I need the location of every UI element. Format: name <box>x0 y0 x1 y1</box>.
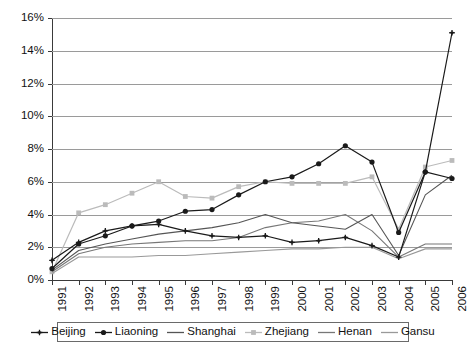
data-point-diamond <box>49 266 54 271</box>
data-point-square <box>450 158 455 163</box>
legend-item-henan[interactable]: Henan <box>318 326 372 338</box>
y-axis-tick-label: 2% <box>0 241 44 253</box>
legend-swatch-shanghai <box>167 327 184 338</box>
data-point-plus <box>316 238 322 244</box>
x-axis-tick-mark <box>132 280 133 285</box>
x-axis-tick-mark <box>79 280 80 285</box>
data-point-diamond <box>369 160 374 165</box>
y-axis-tick-label: 14% <box>0 45 44 57</box>
data-point-square <box>316 181 321 186</box>
data-point-square <box>370 174 375 179</box>
data-point-square <box>251 330 256 335</box>
chart-legend: BeijingLiaoningShanghaiZhejiangHenanGans… <box>57 322 409 342</box>
x-axis-tick-mark <box>159 280 160 285</box>
legend-swatch-gansu <box>381 327 398 338</box>
data-point-diamond <box>316 161 321 166</box>
y-axis-tick-label: 8% <box>0 143 44 155</box>
y-axis-labels: 0%2%4%6%8%10%12%14%16% <box>0 18 46 280</box>
x-axis-tick-mark <box>452 280 453 285</box>
y-axis-tick-label: 10% <box>0 110 44 122</box>
x-axis-tick-label: 1996 <box>190 286 202 312</box>
data-point-plus <box>129 223 135 229</box>
data-point-plus <box>37 329 43 335</box>
x-axis-tick-label: 2001 <box>324 286 336 312</box>
data-point-plus <box>289 240 295 246</box>
data-point-square <box>183 194 188 199</box>
legend-item-beijing[interactable]: Beijing <box>31 326 86 338</box>
data-point-square <box>236 184 241 189</box>
data-point-plus <box>103 228 109 234</box>
data-point-square <box>103 202 108 207</box>
data-point-diamond <box>396 230 401 235</box>
data-point-square <box>343 181 348 186</box>
legend-swatch-liaoning <box>95 327 112 338</box>
x-axis-tick-label: 1999 <box>270 286 282 312</box>
x-axis-tick-mark <box>105 280 106 285</box>
x-axis-tick-label: 2000 <box>297 286 309 312</box>
data-point-square <box>290 181 295 186</box>
legend-item-zhejiang[interactable]: Zhejiang <box>245 326 309 338</box>
x-axis-tick-label: 1994 <box>137 286 149 312</box>
data-point-plus <box>236 235 242 241</box>
x-axis-tick-mark <box>372 280 373 285</box>
y-axis-tick-label: 16% <box>0 12 44 24</box>
data-point-diamond <box>289 174 294 179</box>
x-axis-tick-label: 2005 <box>430 286 442 312</box>
x-axis-tick-label: 2002 <box>350 286 362 312</box>
data-point-diamond <box>236 192 241 197</box>
x-axis-tick-mark <box>185 280 186 285</box>
data-point-square <box>210 196 215 201</box>
data-point-diamond <box>101 329 106 334</box>
data-point-plus <box>263 233 269 239</box>
x-axis-tick-mark <box>265 280 266 285</box>
legend-item-shanghai[interactable]: Shanghai <box>167 326 236 338</box>
y-axis-tick-label: 6% <box>0 176 44 188</box>
x-axis-tick-mark <box>292 280 293 285</box>
data-point-diamond <box>183 209 188 214</box>
data-point-plus <box>423 169 429 175</box>
legend-item-liaoning[interactable]: Liaoning <box>95 326 158 338</box>
legend-label: Henan <box>338 326 372 338</box>
x-axis-tick-mark <box>425 280 426 285</box>
x-axis-tick-mark <box>52 280 53 285</box>
x-axis-tick-mark <box>345 280 346 285</box>
x-axis-tick-mark <box>319 280 320 285</box>
data-point-square <box>130 191 135 196</box>
legend-swatch-henan <box>318 327 335 338</box>
x-axis-tick-label: 1998 <box>244 286 256 312</box>
x-axis-tick-label: 1997 <box>217 286 229 312</box>
legend-label: Beijing <box>51 326 86 338</box>
legend-item-gansu[interactable]: Gansu <box>381 326 435 338</box>
data-point-square <box>76 210 81 215</box>
data-point-diamond <box>103 233 108 238</box>
x-axis-tick-label: 1995 <box>164 286 176 312</box>
data-point-square <box>156 179 161 184</box>
x-axis-tick-label: 2003 <box>377 286 389 312</box>
data-point-diamond <box>343 143 348 148</box>
legend-label: Liaoning <box>115 326 158 338</box>
y-axis-tick-label: 12% <box>0 78 44 90</box>
series-layer <box>52 18 452 280</box>
data-point-diamond <box>209 207 214 212</box>
legend-label: Gansu <box>401 326 435 338</box>
x-axis-tick-mark <box>239 280 240 285</box>
data-point-plus <box>183 228 189 234</box>
data-point-plus <box>209 233 215 239</box>
x-axis-tick-label: 2004 <box>404 286 416 312</box>
legend-label: Shanghai <box>187 326 236 338</box>
x-axis-tick-label: 1993 <box>110 286 122 312</box>
x-axis-tick-mark <box>212 280 213 285</box>
data-point-plus <box>343 235 349 241</box>
plot-area <box>52 18 452 280</box>
data-point-plus <box>449 30 455 36</box>
data-point-diamond <box>449 176 454 181</box>
x-axis-tick-label: 1991 <box>57 286 69 312</box>
x-axis-tick-label: 2006 <box>457 286 469 312</box>
y-axis-tick-label: 4% <box>0 209 44 221</box>
legend-swatch-beijing <box>31 327 48 338</box>
x-axis-labels: 1991199219931994199519961997199819992000… <box>0 286 466 326</box>
y-axis-tick-label: 0% <box>0 274 44 286</box>
x-axis-tick-mark <box>399 280 400 285</box>
legend-swatch-zhejiang <box>245 327 262 338</box>
